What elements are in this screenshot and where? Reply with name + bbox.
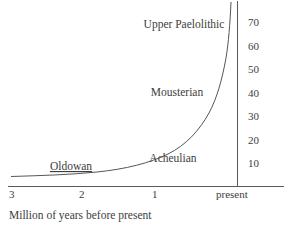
x-tick-label-2: 2 xyxy=(79,188,85,200)
y-tick-label-40: 40 xyxy=(248,87,260,99)
annotation-oldowan: Oldowan xyxy=(50,160,92,172)
y-tick-label-70: 70 xyxy=(248,16,260,28)
y-tick-label-20: 20 xyxy=(248,134,260,146)
chart-figure: 70 60 50 40 30 20 10 3 2 1 present Upper… xyxy=(0,0,292,235)
x-tick-label-1: 1 xyxy=(152,188,158,200)
y-tick-label-10: 10 xyxy=(248,157,260,169)
annotation-upper-paelolithic: Upper Paelolithic xyxy=(144,18,225,31)
x-tick-label-3: 3 xyxy=(9,188,15,200)
y-tick-label-60: 60 xyxy=(248,40,260,52)
archaeology-tool-complexity-chart: 70 60 50 40 30 20 10 3 2 1 present Upper… xyxy=(0,0,292,235)
y-tick-label-50: 50 xyxy=(248,63,260,75)
x-axis-caption: Million of years before present xyxy=(9,209,152,222)
y-tick-label-30: 30 xyxy=(248,110,260,122)
x-tick-label-present: present xyxy=(216,188,248,200)
annotation-mousterian: Mousterian xyxy=(151,86,204,98)
annotation-acheulian: Acheulian xyxy=(149,152,197,164)
